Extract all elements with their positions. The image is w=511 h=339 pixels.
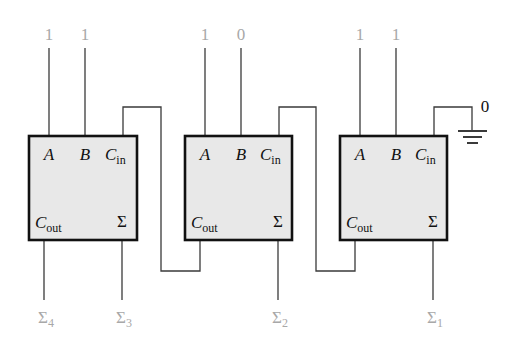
output-sum3-label: Σ3 [116,308,132,330]
input-b3-label: 1 [392,25,401,44]
output-sum4-label: Σ4 [38,308,54,330]
pin-b-label: B [80,145,91,164]
full-adder-block-3: A B Cin Cout Σ [340,136,447,240]
pin-sum-label: Σ [428,212,438,231]
input-b2-label: 0 [237,25,246,44]
pin-b-label: B [236,145,247,164]
pin-a-label: A [199,145,211,164]
input-b1-label: 1 [81,25,90,44]
input-a3-label: 1 [356,25,365,44]
carry-in-value-label: 0 [481,97,490,116]
input-a1-label: 1 [45,25,54,44]
pin-a-label: A [43,145,55,164]
full-adder-block-2: A B Cin Cout Σ [185,136,292,240]
pin-sum-label: Σ [117,212,127,231]
input-a2-label: 1 [201,25,210,44]
ground-icon [458,131,487,143]
output-sum1-label: Σ1 [427,308,443,330]
adder-circuit-diagram: 1 1 1 0 1 1 0 A B Cin Cout Σ A B Cin Cou… [0,0,511,339]
full-adder-block-1: A B Cin Cout Σ [29,136,137,240]
pin-a-label: A [354,145,366,164]
pin-b-label: B [391,145,402,164]
output-sum2-label: Σ2 [272,308,288,330]
pin-sum-label: Σ [273,212,283,231]
